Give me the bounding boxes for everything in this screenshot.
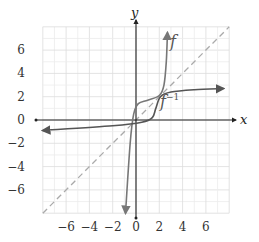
x-tick-label: 0 xyxy=(132,220,140,234)
x-tick-label: 4 xyxy=(179,220,187,234)
x-axis-label: x xyxy=(240,112,248,127)
y-tick-label: 0 xyxy=(17,113,25,127)
tick-labels: −6−4−202466420−2−4−6 xyxy=(7,43,209,234)
x-tick-label: −4 xyxy=(81,220,99,234)
f-curve xyxy=(126,33,168,214)
f-inverse-exponent: −1 xyxy=(166,92,179,102)
y-tick-label: −4 xyxy=(7,160,25,174)
y-tick-label: −6 xyxy=(7,183,25,197)
x-tick-label: 6 xyxy=(202,220,210,234)
inverse-function-graph: −6−4−202466420−2−4−6 x y f f−1 xyxy=(0,0,259,242)
y-tick-label: 4 xyxy=(17,66,25,80)
y-axis-label: y xyxy=(130,5,139,20)
x-axis-left-end xyxy=(35,119,38,122)
y-tick-label: 6 xyxy=(17,43,25,57)
x-tick-label: 2 xyxy=(155,220,163,234)
f-label: f xyxy=(169,32,179,51)
y-tick-label: 2 xyxy=(17,90,25,104)
x-tick-label: −6 xyxy=(57,220,75,234)
y-tick-label: −2 xyxy=(7,136,25,150)
f-inverse-curve xyxy=(43,89,224,131)
x-tick-label: −2 xyxy=(104,220,122,234)
